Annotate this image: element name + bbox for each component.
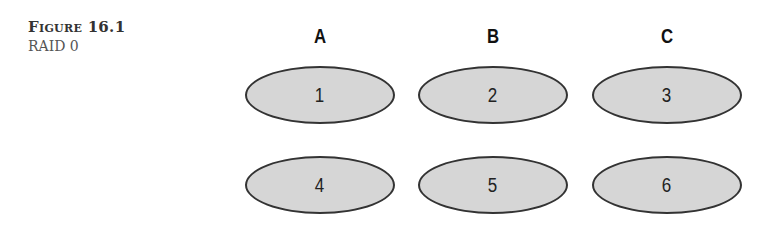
stripe-block-5: 5 — [418, 156, 568, 214]
block-label: 4 — [315, 174, 324, 197]
figure-number: Figure 16.1 — [28, 18, 125, 36]
stripe-block-4: 4 — [245, 156, 395, 214]
stripe-block-1: 1 — [245, 66, 395, 124]
column-header-a: A — [296, 24, 344, 48]
column-header-c: C — [643, 24, 691, 48]
figure-title: RAID 0 — [28, 38, 125, 54]
stripe-block-3: 3 — [592, 66, 742, 124]
column-header-b: B — [469, 24, 517, 48]
stripe-block-2: 2 — [418, 66, 568, 124]
block-label: 1 — [315, 84, 324, 107]
figure-caption: Figure 16.1 RAID 0 — [28, 18, 125, 54]
block-label: 3 — [662, 84, 671, 107]
stripe-block-6: 6 — [592, 156, 742, 214]
block-label: 5 — [488, 174, 497, 197]
block-label: 2 — [488, 84, 497, 107]
block-label: 6 — [662, 174, 671, 197]
